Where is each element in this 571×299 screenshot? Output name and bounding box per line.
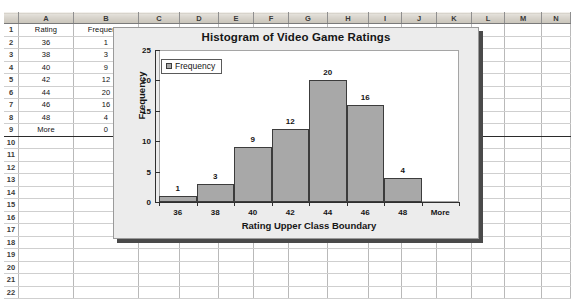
cell-e21[interactable] [219,274,254,287]
cell-b20[interactable] [74,261,139,274]
cell-a11[interactable] [19,149,74,162]
row-header-11[interactable]: 11 [4,149,19,162]
bar-42[interactable] [272,129,310,202]
cell-e22[interactable] [219,286,254,299]
cell-c21[interactable] [139,274,180,287]
cell-a12[interactable] [19,161,74,174]
cell-b21[interactable] [74,274,139,287]
cell-a22[interactable] [19,286,74,299]
cell-l21[interactable] [472,274,505,287]
cell-n16[interactable] [542,211,571,224]
cell-m2[interactable] [505,36,542,49]
row-header-9[interactable]: 9 [4,124,19,137]
cell-h21[interactable] [328,274,369,287]
cell-a14[interactable] [19,186,74,199]
bar-40[interactable] [234,147,272,202]
cell-l19[interactable] [472,249,505,262]
cell-c20[interactable] [139,261,180,274]
cell-m17[interactable] [505,224,542,237]
cell-d22[interactable] [180,286,219,299]
cell-g20[interactable] [289,261,328,274]
cell-d20[interactable] [180,261,219,274]
cell-a20[interactable] [19,261,74,274]
cell-n1[interactable] [542,24,571,37]
row-header-8[interactable]: 8 [4,111,19,124]
cell-n14[interactable] [542,186,571,199]
cell-c19[interactable] [139,249,180,262]
cell-n15[interactable] [542,199,571,212]
cell-n6[interactable] [542,86,571,99]
cell-g22[interactable] [289,286,328,299]
cell-m11[interactable] [505,149,542,162]
cell-h22[interactable] [328,286,369,299]
table-row[interactable]: 19 [4,249,571,262]
cell-i21[interactable] [369,274,402,287]
bar-46[interactable] [347,105,385,202]
cell-m6[interactable] [505,86,542,99]
row-header-10[interactable]: 10 [4,136,19,149]
cell-n13[interactable] [542,174,571,187]
row-header-4[interactable]: 4 [4,61,19,74]
row-header-20[interactable]: 20 [4,261,19,274]
cell-n22[interactable] [542,286,571,299]
cell-m8[interactable] [505,111,542,124]
cell-i20[interactable] [369,261,402,274]
cell-g19[interactable] [289,249,328,262]
cell-m18[interactable] [505,236,542,249]
cell-f22[interactable] [254,286,289,299]
chart-legend[interactable]: Frequency [161,59,222,74]
cell-n12[interactable] [542,161,571,174]
row-header-16[interactable]: 16 [4,211,19,224]
cell-f21[interactable] [254,274,289,287]
row-header-14[interactable]: 14 [4,186,19,199]
cell-m20[interactable] [505,261,542,274]
cell-n19[interactable] [542,249,571,262]
row-header-22[interactable]: 22 [4,286,19,299]
cell-n9[interactable] [542,124,571,137]
cell-m15[interactable] [505,199,542,212]
cell-e20[interactable] [219,261,254,274]
row-header-13[interactable]: 13 [4,174,19,187]
cell-h20[interactable] [328,261,369,274]
cell-c22[interactable] [139,286,180,299]
cell-j21[interactable] [402,274,437,287]
bar-44[interactable] [309,80,347,202]
column-header-i[interactable]: I [369,13,402,24]
cell-n17[interactable] [542,224,571,237]
cell-n4[interactable] [542,61,571,74]
column-header-d[interactable]: D [180,13,219,24]
column-header-g[interactable]: G [289,13,328,24]
column-header-k[interactable]: K [437,13,472,24]
cell-a18[interactable] [19,236,74,249]
row-header-1[interactable]: 1 [4,24,19,37]
bar-48[interactable] [384,178,422,202]
cell-m4[interactable] [505,61,542,74]
cell-k20[interactable] [437,261,472,274]
cell-m21[interactable] [505,274,542,287]
bar-36[interactable] [159,196,197,202]
cell-a7[interactable]: 46 [19,99,74,112]
cell-n2[interactable] [542,36,571,49]
cell-n3[interactable] [542,49,571,62]
cell-i19[interactable] [369,249,402,262]
cell-e19[interactable] [219,249,254,262]
row-header-12[interactable]: 12 [4,161,19,174]
table-row[interactable]: 21 [4,274,571,287]
cell-k19[interactable] [437,249,472,262]
cell-a9[interactable]: More [19,124,74,137]
cell-j19[interactable] [402,249,437,262]
cell-k22[interactable] [437,286,472,299]
cell-f20[interactable] [254,261,289,274]
cell-h19[interactable] [328,249,369,262]
cell-a8[interactable]: 48 [19,111,74,124]
cell-l22[interactable] [472,286,505,299]
row-header-7[interactable]: 7 [4,99,19,112]
row-header-2[interactable]: 2 [4,36,19,49]
cell-m9[interactable] [505,124,542,137]
cell-n11[interactable] [542,149,571,162]
cell-a3[interactable]: 38 [19,49,74,62]
cell-b19[interactable] [74,249,139,262]
column-header-c[interactable]: C [139,13,180,24]
column-header-n[interactable]: N [542,13,571,24]
cell-a19[interactable] [19,249,74,262]
